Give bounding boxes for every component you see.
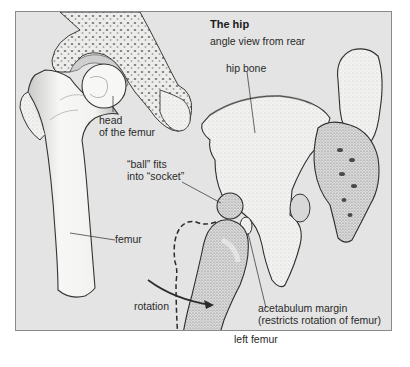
label-acetabulum-line2: (restricts rotation of femur) — [258, 314, 381, 326]
sacrum-drawing — [314, 49, 382, 242]
label-acetabulum-line1: acetabulum margin — [258, 302, 381, 314]
label-hip-bone: hip bone — [226, 62, 266, 74]
label-femur: femur — [115, 233, 142, 245]
label-left-femur: left femur — [234, 333, 278, 345]
label-head-line1: head — [99, 114, 155, 126]
label-ball-line2: into “socket” — [127, 170, 184, 182]
label-ball-line1: “ball” fits — [127, 158, 184, 170]
label-acetabulum-margin: acetabulum margin (restricts rotation of… — [258, 302, 381, 326]
label-ball-socket: “ball” fits into “socket” — [127, 158, 184, 182]
label-head-line2: of the femur — [99, 126, 155, 138]
label-rotation: rotation — [134, 300, 169, 312]
figure-subtitle: angle view from rear — [210, 35, 305, 47]
left-femur-drawing — [20, 64, 126, 297]
figure-title: The hip — [210, 18, 249, 30]
label-head-of-femur: head of the femur — [99, 114, 155, 138]
left-femur-rear-drawing — [182, 220, 248, 340]
